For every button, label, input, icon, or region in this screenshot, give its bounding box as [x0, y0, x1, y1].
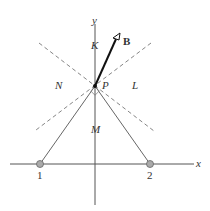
x-axis-label: x: [196, 158, 201, 169]
charge-1: [37, 161, 44, 168]
charge-2: [147, 161, 154, 168]
vector-B-label: B: [123, 36, 130, 47]
region-M: M: [91, 124, 100, 135]
region-L: L: [132, 80, 138, 91]
point-P-label: P: [102, 80, 109, 91]
y-axis-label: y: [92, 15, 97, 26]
line-2-to-P: [95, 86, 150, 164]
diagram-graphics: [0, 0, 210, 211]
charge-2-label: 2: [147, 170, 153, 181]
region-K: K: [91, 40, 98, 51]
point-P: [93, 84, 97, 88]
diagram: y x K B N P L M 1 2: [0, 0, 210, 211]
vector-B-arrowhead: [113, 33, 120, 40]
charge-1-label: 1: [37, 170, 43, 181]
line-1-to-P: [40, 86, 95, 164]
region-N: N: [55, 80, 62, 91]
